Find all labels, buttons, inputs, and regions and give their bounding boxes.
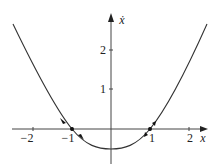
x-tick-label: 1	[149, 131, 155, 145]
y-tick-label: 2	[100, 43, 106, 57]
y-axis-label: ẋ	[118, 13, 125, 27]
fixed-point-stable	[70, 127, 74, 131]
x-tick-label: 2	[187, 131, 193, 145]
x-axis-label: x	[199, 131, 206, 145]
x-tick-label: −2	[21, 131, 34, 145]
phase-plot: −2 −1 1 2 1 2 x ẋ	[0, 0, 220, 165]
x-tick-label: −1	[62, 131, 75, 145]
fixed-point-unstable	[148, 127, 152, 131]
y-tick-label: 1	[100, 82, 106, 96]
y-axis-arrow-icon	[108, 13, 114, 22]
phase-curve	[13, 24, 207, 149]
